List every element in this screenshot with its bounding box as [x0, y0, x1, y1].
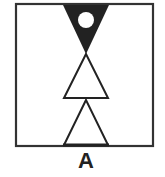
bottom-triangle	[64, 100, 108, 145]
figure-label: A	[0, 148, 165, 174]
white-circle	[78, 12, 94, 28]
middle-triangle	[64, 54, 108, 98]
